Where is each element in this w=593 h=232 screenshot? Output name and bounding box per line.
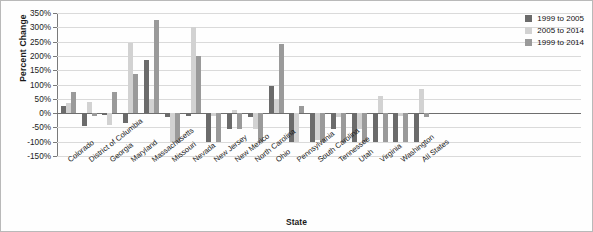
bar	[279, 44, 284, 113]
y-axis-tick-label: 100%	[30, 80, 51, 89]
legend: 1999 to 2005 2005 to 2014 1999 to 2014	[525, 14, 584, 47]
x-axis-title: State	[1, 217, 592, 227]
bar-group	[141, 13, 162, 156]
legend-label: 1999 to 2014	[537, 38, 584, 47]
bar	[299, 106, 304, 113]
y-axis-tick	[53, 127, 57, 128]
y-axis-title: Percent Change	[18, 0, 28, 103]
y-axis-tick-label: 250%	[30, 37, 51, 46]
y-axis-tick-label: -100%	[27, 137, 51, 146]
bar-slot	[196, 13, 201, 156]
bar	[403, 113, 408, 142]
bar-slot	[92, 13, 97, 156]
y-axis-tick	[53, 99, 57, 100]
y-axis-tick	[53, 27, 57, 28]
bar	[383, 113, 388, 142]
bar	[196, 56, 201, 113]
bar-slot	[133, 13, 138, 156]
bar	[424, 113, 429, 117]
bar	[92, 113, 97, 116]
y-axis-tick	[53, 70, 57, 71]
bar-group	[370, 13, 391, 156]
legend-label: 1999 to 2005	[537, 14, 584, 23]
y-axis-tick-label: 150%	[30, 66, 51, 75]
legend-label: 2005 to 2014	[537, 26, 584, 35]
legend-item: 1999 to 2014	[525, 38, 584, 47]
y-axis-tick	[53, 142, 57, 143]
legend-swatch-icon	[525, 15, 532, 22]
bar	[71, 92, 76, 113]
legend-swatch-icon	[525, 27, 532, 34]
y-axis-tick-label: 300%	[30, 23, 51, 32]
x-axis-tick-labels: ColoradoDistrict of ColumbiaGeorgiaMaryl…	[57, 157, 431, 217]
y-axis-tick	[53, 113, 57, 114]
y-axis-tick	[53, 85, 57, 86]
bar-group	[79, 13, 100, 156]
bar-chart: Percent Change 350%300%250%200%150%100%5…	[0, 0, 593, 232]
y-axis-tick-label: -150%	[27, 152, 51, 161]
bar-slot	[299, 13, 304, 156]
bar-group	[58, 13, 79, 156]
y-axis-tick	[53, 42, 57, 43]
y-axis-tick	[53, 56, 57, 57]
bar	[133, 74, 138, 113]
bar-group	[203, 13, 224, 156]
bar	[154, 20, 159, 113]
y-axis-tick-label: 200%	[30, 51, 51, 60]
bar-slot	[403, 13, 408, 156]
legend-swatch-icon	[525, 39, 532, 46]
y-axis-tick-label: -50%	[32, 123, 51, 132]
bar-slot	[154, 13, 159, 156]
y-axis-tick	[53, 13, 57, 14]
legend-item: 2005 to 2014	[525, 26, 584, 35]
y-axis-tick-label: 0%	[39, 109, 51, 118]
y-axis-tick-label: 350%	[30, 9, 51, 18]
bar-slot	[216, 13, 221, 156]
bar-slot	[383, 13, 388, 156]
bar-group	[390, 13, 411, 156]
bar	[216, 113, 221, 142]
y-axis-tick-label: 50%	[35, 94, 51, 103]
bar-slot	[71, 13, 76, 156]
bar	[112, 92, 117, 113]
bar	[237, 113, 242, 129]
legend-item: 1999 to 2005	[525, 14, 584, 23]
